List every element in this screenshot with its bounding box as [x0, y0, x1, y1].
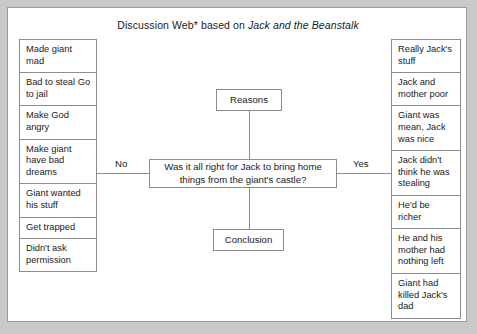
yes-reasons-column: Really Jack's stuff Jack and mother poor… — [391, 39, 461, 319]
no-reason-item: Bad to steal Go to jail — [20, 73, 96, 106]
title-book-name: Jack and the Beanstalk — [248, 19, 359, 31]
title-prefix-text: Discussion Web* based on — [117, 19, 248, 31]
yes-reason-item: Giant had killed Jack's dad — [392, 274, 460, 318]
yes-reason-item: Really Jack's stuff — [392, 40, 460, 73]
connector-no-branch — [97, 173, 150, 174]
no-reason-item: Make God angry — [20, 106, 96, 139]
yes-reason-item: Jack and mother poor — [392, 73, 460, 106]
diagram-title: Discussion Web* based on Jack and the Be… — [8, 19, 468, 31]
yes-reason-item: Giant was mean, Jack was nice — [392, 106, 460, 151]
yes-reason-item: He and his mother had nothing left — [392, 229, 460, 274]
reasons-box: Reasons — [216, 89, 282, 111]
no-reason-item: Didn't ask permission — [20, 239, 96, 271]
central-question-box: Was it all right for Jack to bring home … — [149, 159, 337, 188]
no-reason-item: Made giant mad — [20, 40, 96, 73]
connector-question-to-conclusion — [249, 188, 250, 229]
no-reason-item: Get trapped — [20, 218, 96, 240]
connector-reasons-to-question — [249, 111, 250, 159]
connector-yes-branch — [337, 173, 392, 174]
yes-reason-item: Jack didn't think he was stealing — [392, 151, 460, 196]
no-reasons-column: Made giant mad Bad to steal Go to jail M… — [19, 39, 97, 272]
yes-reason-item: He'd be richer — [392, 196, 460, 229]
conclusion-box: Conclusion — [213, 229, 284, 251]
no-reason-item: Giant wanted his stuff — [20, 184, 96, 217]
diagram-canvas: Discussion Web* based on Jack and the Be… — [7, 7, 467, 322]
no-reason-item: Make giant have bad dreams — [20, 140, 96, 185]
branch-label-yes: Yes — [353, 158, 369, 169]
branch-label-no: No — [115, 158, 127, 169]
